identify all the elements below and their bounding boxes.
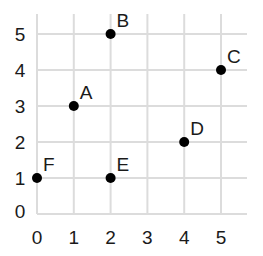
y-tick-label: 3 [15, 96, 26, 117]
x-tick-label: 0 [32, 227, 43, 248]
x-axis-tick-labels: 012345 [32, 227, 227, 248]
point-marker [106, 173, 116, 183]
point-marker [69, 101, 79, 111]
grid-lines [37, 14, 247, 214]
x-tick-label: 3 [142, 227, 153, 248]
x-tick-label: 4 [179, 227, 190, 248]
y-tick-label: 2 [15, 132, 26, 153]
point-marker [32, 173, 42, 183]
point-marker [106, 29, 116, 39]
coordinate-grid-chart: 012345 012345 ABCDEF [0, 0, 263, 256]
point-marker [216, 65, 226, 75]
point-label: C [227, 46, 241, 67]
y-tick-label: 1 [15, 168, 26, 189]
point-label: D [190, 118, 204, 139]
x-tick-label: 2 [105, 227, 116, 248]
y-tick-label: 4 [15, 60, 26, 81]
y-tick-label: 0 [15, 201, 26, 222]
point-label: B [117, 10, 130, 31]
point-marker [179, 137, 189, 147]
point-label: F [43, 154, 55, 175]
point-label: E [117, 154, 130, 175]
x-tick-label: 1 [69, 227, 80, 248]
point-label: A [80, 82, 93, 103]
y-tick-label: 5 [15, 24, 26, 45]
y-axis-tick-labels: 012345 [15, 24, 26, 222]
x-tick-label: 5 [216, 227, 227, 248]
data-points: ABCDEF [32, 10, 241, 183]
